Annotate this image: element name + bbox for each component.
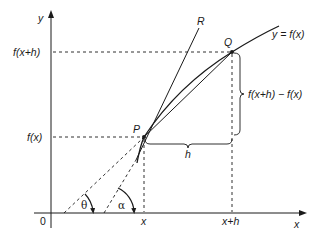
vertical-brace (234, 53, 244, 135)
horizontal-brace (145, 139, 232, 148)
point-p-label: P (133, 123, 140, 135)
secant-extension-dash (64, 139, 142, 213)
secant-line-pq (142, 52, 232, 139)
x-tick-xh: x+h (221, 215, 239, 227)
x-tick-x: x (140, 215, 147, 227)
origin-label: 0 (40, 215, 46, 227)
alpha-label: α (118, 199, 125, 211)
guide-lines (53, 52, 232, 213)
vertical-brace-label: f(x+h) − f(x) (248, 88, 302, 100)
y-axis-label: y (37, 12, 44, 24)
derivative-diagram: y x 0 f(x+h) f(x) x x+h P Q R y = f(x) f… (0, 0, 328, 242)
theta-label: θ (81, 199, 87, 211)
horizontal-brace-label: h (185, 148, 191, 160)
curve-label: y = f(x) (271, 28, 304, 40)
y-tick-fx: f(x) (27, 131, 42, 143)
point-p-dot (142, 135, 146, 139)
y-tick-fxh: f(x+h) (13, 46, 40, 58)
axes (34, 14, 303, 228)
point-q-dot (230, 50, 234, 54)
point-q-label: Q (224, 36, 232, 48)
point-r-label: R (197, 15, 205, 27)
x-axis-label: x (293, 218, 300, 230)
